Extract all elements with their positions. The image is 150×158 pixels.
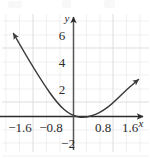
y-axis-label: y xyxy=(64,12,70,24)
x-tick-minus-1-6: −1.6 xyxy=(8,120,32,135)
x-axis-label: x xyxy=(138,117,144,129)
x-tick-minus-0-8: −0.8 xyxy=(39,120,63,135)
parabola-graph-figure: 6 4 2 −2 −1.6 −0.8 0.8 1.6 x y xyxy=(0,0,150,158)
y-tick-6: 6 xyxy=(59,28,66,43)
y-tick-2: 2 xyxy=(59,82,66,97)
y-tick-minus-2: −2 xyxy=(61,136,75,151)
x-tick-0-8: 0.8 xyxy=(95,120,111,135)
y-tick-4: 4 xyxy=(59,55,66,70)
parabola-curve xyxy=(14,34,139,118)
graph-canvas: 6 4 2 −2 −1.6 −0.8 0.8 1.6 x y xyxy=(0,0,150,158)
x-tick-1-6: 1.6 xyxy=(122,120,139,135)
